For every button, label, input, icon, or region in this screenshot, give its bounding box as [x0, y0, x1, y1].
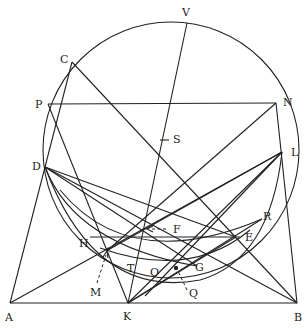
label-T: T [127, 262, 135, 275]
label-H: H [79, 237, 89, 250]
arrowhead-M [103, 251, 108, 258]
label-R: R [263, 210, 272, 223]
point-M-dot [106, 247, 109, 250]
line-L-F [108, 152, 282, 250]
pointer-M [97, 255, 106, 283]
line-PN [48, 103, 276, 104]
label-V: V [181, 6, 191, 19]
label-O: O [150, 266, 159, 279]
label-D: D [32, 160, 41, 173]
line-AD [10, 167, 45, 303]
label-L: L [291, 146, 299, 159]
line-N-M [108, 103, 276, 250]
label-N: N [283, 96, 293, 109]
line-BN [276, 103, 297, 303]
label-M: M [90, 286, 101, 299]
line-CD [45, 62, 72, 167]
label-B: B [294, 311, 302, 324]
line-L-O [145, 152, 282, 296]
line-DG [45, 167, 197, 266]
line-PK [48, 104, 128, 303]
label-C: C [60, 53, 68, 66]
line-DE [45, 167, 236, 237]
geometry-diagram: V C P N S D L R F H E G O T M Q K A B [0, 0, 305, 328]
label-Q: Q [189, 287, 198, 300]
point-Q-dot [174, 266, 178, 270]
label-F: F [173, 223, 181, 236]
label-S: S [173, 133, 181, 146]
label-K: K [123, 310, 132, 323]
line-KE [128, 237, 236, 303]
label-E: E [245, 231, 253, 244]
label-A: A [4, 311, 14, 324]
label-P: P [35, 98, 43, 111]
label-G: G [195, 261, 204, 274]
pointer-Q [178, 271, 187, 290]
